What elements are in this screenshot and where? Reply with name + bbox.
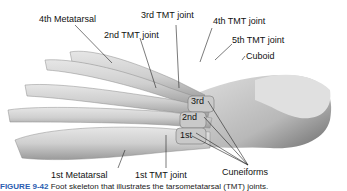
label-5th-tmt-joint: 5th TMT joint: [232, 36, 284, 45]
label-cuneiforms: Cuneiforms: [222, 168, 268, 177]
foot-bones-illustration: [0, 0, 347, 191]
foot-skeleton-diagram: 4th Metatarsal 3rd TMT joint 4th TMT joi…: [0, 0, 347, 191]
figure-caption: FIGURE 9-42 Foot skeleton that illustrat…: [0, 182, 268, 191]
label-2nd-tmt-joint: 2nd TMT joint: [104, 31, 159, 40]
label-4th-metatarsal: 4th Metatarsal: [39, 15, 96, 24]
label-3rd-cuneiform: 3rd: [191, 97, 204, 106]
label-1st-metatarsal: 1st Metatarsal: [51, 171, 108, 180]
label-1st-cuneiform: 1st: [180, 131, 192, 140]
label-3rd-tmt-joint: 3rd TMT joint: [141, 11, 194, 20]
label-4th-tmt-joint: 4th TMT joint: [213, 17, 265, 26]
label-cuboid: Cuboid: [246, 52, 275, 61]
figure-number: FIGURE 9-42: [0, 182, 48, 191]
label-1st-tmt-joint: 1st TMT joint: [135, 171, 187, 180]
figure-caption-text: Foot skeleton that illustrates the tarso…: [51, 182, 268, 191]
label-2nd-cuneiform: 2nd: [182, 113, 197, 122]
